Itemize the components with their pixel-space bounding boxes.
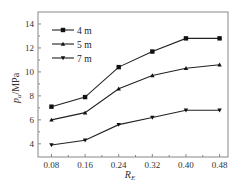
legend-label: 7 m xyxy=(77,54,92,64)
y-tick-label: 4 xyxy=(30,139,35,149)
legend-item: 5 m xyxy=(52,40,92,50)
y-tick-label: 14 xyxy=(25,19,35,29)
legend-label: 5 m xyxy=(77,40,92,50)
data-series xyxy=(49,36,222,147)
series-4-m xyxy=(49,36,222,109)
plot-frame xyxy=(38,12,228,157)
legend-item: 7 m xyxy=(52,54,92,64)
y-tick-label: 8 xyxy=(30,91,35,101)
y-axis-title: pu/MPa xyxy=(10,72,23,104)
y-tick-label: 10 xyxy=(25,67,35,77)
x-axis-ticks: 0.080.160.240.320.400.48 xyxy=(44,154,228,170)
x-axis-title: RE xyxy=(124,169,136,182)
x-tick-label: 0.48 xyxy=(212,160,228,170)
x-tick-label: 0.16 xyxy=(77,160,93,170)
y-axis-ticks: 468101214 xyxy=(25,19,41,149)
legend: 4 m5 m7 m xyxy=(52,26,92,64)
x-tick-label: 0.32 xyxy=(144,160,160,170)
legend-label: 4 m xyxy=(77,26,92,36)
series-5-m xyxy=(49,63,222,122)
legend-item: 4 m xyxy=(52,26,92,36)
x-tick-label: 0.40 xyxy=(178,160,194,170)
x-tick-label: 0.08 xyxy=(44,160,60,170)
line-chart: 468101214 0.080.160.240.320.400.48 4 m5 … xyxy=(0,0,242,189)
y-tick-label: 12 xyxy=(25,43,34,53)
y-tick-label: 6 xyxy=(30,115,35,125)
